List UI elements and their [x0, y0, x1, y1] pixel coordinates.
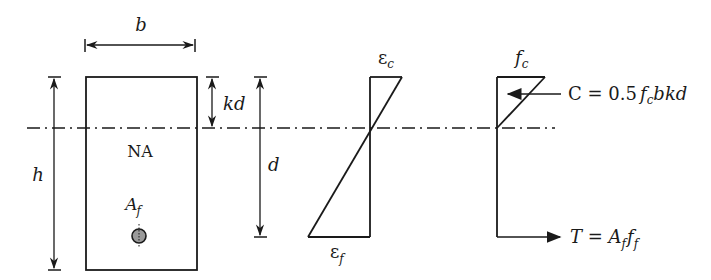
compression-force-equation: C = 0.5fcbkd — [568, 83, 687, 107]
height-label: h — [32, 164, 44, 185]
kd-dimension — [206, 77, 219, 126]
neutral-axis-label: NA — [127, 142, 153, 161]
frp-strain-label: εf — [330, 241, 346, 266]
concrete-strain-label: εc — [378, 47, 394, 71]
reinforcement-area-label: Af — [123, 194, 143, 218]
strain-diagram — [308, 77, 402, 237]
effective-depth-dimension — [254, 77, 267, 237]
tension-force-equation: T = Afff — [570, 226, 641, 251]
concrete-stress-label: fc — [513, 47, 529, 71]
height-dimension — [48, 77, 61, 270]
stress-diagram — [497, 77, 545, 237]
beam-section-diagram: b h NA Af kd d εc εf f — [0, 0, 711, 280]
width-label: b — [135, 14, 147, 35]
width-dimension — [85, 39, 195, 52]
kd-label: kd — [223, 93, 245, 114]
frp-bar-icon — [132, 224, 146, 248]
effective-depth-label: d — [268, 154, 280, 175]
